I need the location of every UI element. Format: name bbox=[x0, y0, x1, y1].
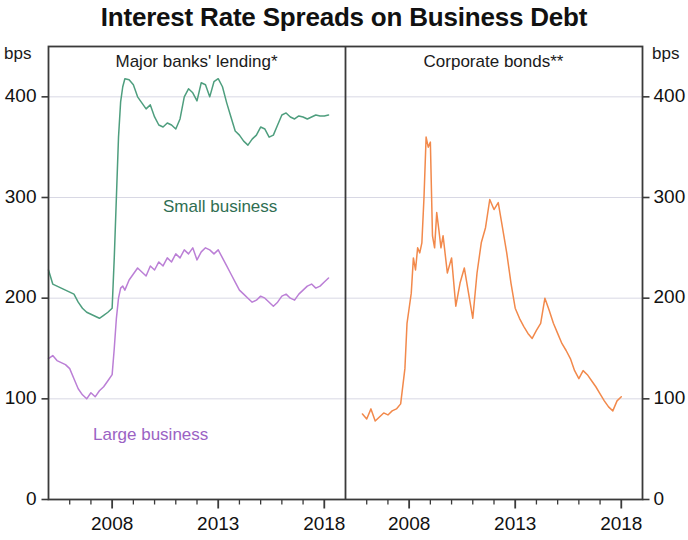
y-axis-tick-label: 0 bbox=[654, 488, 688, 510]
series-line-large-business bbox=[49, 248, 329, 399]
y-axis-tick-label: 400 bbox=[0, 85, 37, 107]
chart-plot bbox=[0, 0, 688, 540]
x-axis-tick-label: 2018 bbox=[586, 513, 656, 535]
y-axis-tick-label: 0 bbox=[0, 488, 37, 510]
y-axis-tick-label: 100 bbox=[654, 387, 688, 409]
y-axis-tick-label: 300 bbox=[0, 186, 37, 208]
x-axis-tick-label: 2018 bbox=[289, 513, 359, 535]
chart-root: Interest Rate Spreads on Business Debt b… bbox=[0, 0, 688, 540]
x-axis-tick-label: 2013 bbox=[480, 513, 550, 535]
y-axis-tick-label: 200 bbox=[654, 286, 688, 308]
series-line-small-business bbox=[49, 79, 329, 319]
x-axis-tick-label: 2013 bbox=[183, 513, 253, 535]
y-axis-tick-label: 300 bbox=[654, 186, 688, 208]
x-axis-tick-label: 2008 bbox=[77, 513, 147, 535]
series-line-corporate-bonds bbox=[362, 137, 621, 421]
y-axis-tick-label: 200 bbox=[0, 286, 37, 308]
y-axis-tick-label: 100 bbox=[0, 387, 37, 409]
y-axis-tick-label: 400 bbox=[654, 85, 688, 107]
x-axis-tick-label: 2008 bbox=[374, 513, 444, 535]
